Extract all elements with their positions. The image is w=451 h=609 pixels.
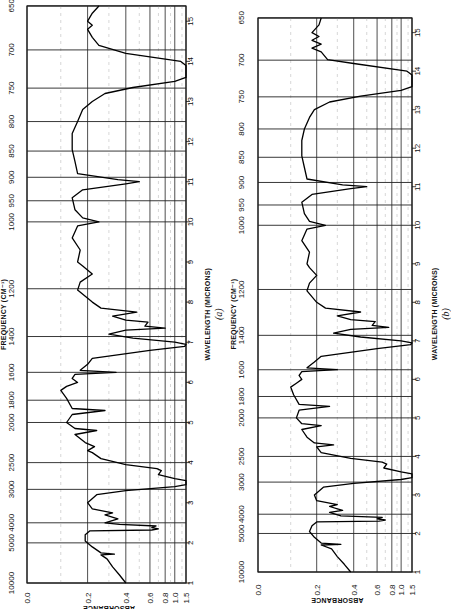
wavelength-tick-label: 2 (186, 540, 195, 545)
wavelength-tick-label: 7 (413, 338, 422, 343)
frequency-tick-label: 1800 (7, 391, 16, 409)
wavelength-tick-label: 4 (186, 460, 195, 465)
absorbance-tick-label: 0.4 (122, 592, 131, 604)
wavelength-tick-label: 6 (413, 377, 422, 382)
frequency-tick-label: 850 (237, 150, 246, 164)
absorbance-tick-label: 0.6 (146, 592, 155, 604)
wavelength-tick-label: 3 (413, 492, 422, 497)
absorbance-tick-label: 1.0 (397, 584, 406, 596)
frequency-tick-label: 1600 (7, 363, 16, 381)
frequency-tick-label: 2000 (7, 413, 16, 431)
absorbance-axis-title: ABSORBANCE (83, 605, 135, 609)
frequency-tick-label: 3000 (7, 480, 16, 498)
wavelength-tick-label: 1 (413, 569, 422, 574)
absorbance-tick-label: 1.0 (171, 592, 180, 604)
absorbance-axis-title: ABSORBANCE (311, 597, 363, 604)
wavelength-tick-label: 10 (186, 217, 195, 226)
frequency-tick-label: 3000 (237, 473, 246, 491)
frequency-tick-label: 1200 (7, 279, 16, 297)
wavelength-tick-label: 1 (186, 580, 195, 585)
wavelength-tick-label: 5 (413, 415, 422, 420)
frequency-tick-label: 1000 (237, 216, 246, 234)
wavelength-tick-label: 8 (413, 300, 422, 305)
frequency-tick-label: 750 (7, 81, 16, 95)
absorbance-tick-label: 0.0 (23, 592, 32, 604)
frequency-tick-label: 700 (7, 43, 16, 57)
frequency-tick-label: 950 (7, 194, 16, 208)
frequency-tick-label: 1200 (237, 280, 246, 298)
wavelength-tick-label: 10 (413, 220, 422, 229)
absorbance-tick-label: 1.5 (408, 584, 417, 596)
wavelength-tick-label: 15 (413, 28, 422, 37)
spectrum-panel-a: 1000050004000300025002000180016001400120… (0, 0, 225, 609)
wavelength-axis-title: WAVELENGTH (MICRONS) (431, 268, 439, 361)
wavelength-tick-label: 12 (186, 137, 195, 146)
wavelength-tick-label: 5 (186, 420, 195, 425)
frequency-tick-label: 5000 (7, 533, 16, 551)
spectrum-trace (291, 18, 412, 572)
absorbance-tick-label: 0.8 (161, 592, 170, 604)
frequency-tick-label: 900 (7, 170, 16, 184)
frequency-tick-label: 950 (237, 198, 246, 212)
absorbance-tick-label: 0.2 (84, 592, 93, 604)
frequency-tick-label: 700 (237, 53, 246, 67)
frequency-tick-label: 1800 (237, 387, 246, 405)
wavelength-tick-label: 6 (186, 380, 195, 385)
wavelength-tick-label: 12 (413, 143, 422, 152)
frequency-tick-label: 750 (237, 90, 246, 104)
frequency-tick-label: 1400 (237, 326, 246, 344)
absorbance-tick-label: 1.5 (182, 592, 191, 604)
frequency-tick-label: 1000 (7, 212, 16, 230)
frequency-tick-label: 800 (237, 122, 246, 136)
frequency-tick-label: 800 (7, 114, 16, 128)
frequency-tick-label: 650 (7, 0, 16, 12)
wavelength-axis-title: WAVELENGTH (MICRONS) (204, 268, 212, 361)
frequency-tick-label: 900 (237, 175, 246, 189)
frequency-tick-label: 2500 (237, 447, 246, 465)
panel-label: (a) (213, 308, 225, 320)
panel-label: (b) (440, 307, 451, 319)
wavelength-tick-label: 11 (186, 177, 195, 186)
frequency-axis-title: FREQUENCY (CM⁻¹) (230, 279, 238, 350)
frequency-tick-label: 2000 (237, 408, 246, 426)
absorbance-tick-label: 0.6 (373, 584, 382, 596)
frequency-tick-label: 4000 (7, 513, 16, 531)
absorbance-tick-label: 0.8 (388, 584, 397, 596)
wavelength-tick-label: 13 (413, 105, 422, 114)
wavelength-tick-label: 7 (186, 339, 195, 344)
wavelength-tick-label: 14 (186, 56, 195, 65)
frequency-tick-label: 2500 (7, 453, 16, 471)
wavelength-tick-label: 9 (413, 261, 422, 266)
spectrum-panel-b: 1000050004000300025002000180016001400120… (230, 11, 451, 604)
spectrum-trace (61, 6, 186, 583)
wavelength-tick-label: 4 (413, 454, 422, 459)
frequency-tick-label: 10000 (237, 560, 246, 583)
wavelength-tick-label: 8 (186, 299, 195, 304)
frequency-tick-label: 4000 (237, 505, 246, 523)
frequency-tick-label: 1400 (7, 327, 16, 345)
wavelength-tick-label: 15 (186, 16, 195, 25)
wavelength-tick-label: 3 (186, 500, 195, 505)
wavelength-tick-label: 2 (413, 531, 422, 536)
frequency-tick-label: 10000 (7, 571, 16, 594)
absorbance-tick-label: 0.2 (313, 584, 322, 596)
frequency-tick-label: 1600 (237, 360, 246, 378)
frequency-tick-label: 650 (237, 11, 246, 25)
wavelength-tick-label: 14 (413, 66, 422, 75)
absorbance-tick-label: 0.0 (254, 584, 263, 596)
frequency-tick-label: 5000 (237, 524, 246, 542)
frequency-axis-title: FREQUENCY (CM⁻¹) (0, 279, 8, 350)
absorbance-tick-label: 0.4 (350, 584, 359, 596)
wavelength-tick-label: 11 (413, 182, 422, 191)
wavelength-tick-label: 13 (186, 97, 195, 106)
ir-spectra-figure: 1000050004000300025002000180016001400120… (0, 0, 451, 609)
wavelength-tick-label: 9 (186, 259, 195, 264)
frequency-tick-label: 850 (7, 144, 16, 158)
